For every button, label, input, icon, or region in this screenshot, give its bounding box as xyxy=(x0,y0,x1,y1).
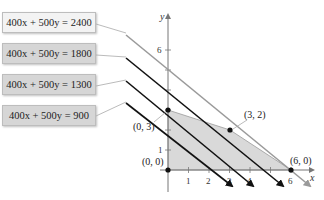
point-label-0-3: (0, 3) xyxy=(133,121,155,133)
y-tick-6: 6 xyxy=(157,45,162,55)
y-tick-1: 1 xyxy=(158,145,163,155)
x-tick-6: 6 xyxy=(288,176,293,186)
point-label-3-2: (3, 2) xyxy=(244,109,266,121)
x-axis-label: x xyxy=(309,172,315,183)
vertex-0-3 xyxy=(165,107,170,112)
x-tick-2: 2 xyxy=(206,176,211,186)
vertex-6-0 xyxy=(288,167,293,172)
vertex-0-0 xyxy=(165,167,170,172)
x-tick-1: 1 xyxy=(186,176,191,186)
graph: 1 2 3 4 6 1 6 x y (0, 0) (0, 3) (3, 2) (… xyxy=(0,0,324,200)
point-label-6-0: (6, 0) xyxy=(290,155,312,167)
y-axis-label: y xyxy=(159,11,165,22)
point-label-0-0: (0, 0) xyxy=(142,156,164,168)
vertex-3-2 xyxy=(227,127,232,132)
